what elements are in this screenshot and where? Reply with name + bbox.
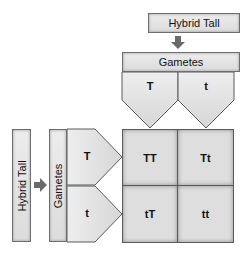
- left-gamete-label-1: T: [67, 150, 107, 162]
- grid-cell-1-1: TT: [122, 129, 178, 186]
- right-arrow-icon: [34, 178, 47, 192]
- left-gametes-header: Gametes: [49, 129, 67, 242]
- grid-cell-2-2: tt: [177, 185, 234, 243]
- top-gamete-label-2: t: [178, 80, 234, 92]
- left-gametes-header-label: Gametes: [52, 163, 64, 208]
- grid-cell-1-2: Tt: [177, 129, 234, 186]
- grid-cell-label: tT: [145, 208, 155, 220]
- left-parent-box: Hybrid Tall: [12, 129, 31, 242]
- grid-cell-label: Tt: [200, 152, 210, 164]
- top-gametes-header-label: Gametes: [159, 56, 204, 68]
- left-parent-label: Hybrid Tall: [16, 160, 28, 211]
- down-arrow-icon: [171, 36, 185, 49]
- left-gamete-label-2: t: [67, 207, 107, 219]
- grid-cell-label: tt: [202, 208, 209, 220]
- grid-cell-label: TT: [143, 152, 156, 164]
- grid-cell-2-1: tT: [122, 185, 178, 243]
- top-gamete-label-1: T: [122, 80, 178, 92]
- top-gametes-header: Gametes: [122, 52, 240, 72]
